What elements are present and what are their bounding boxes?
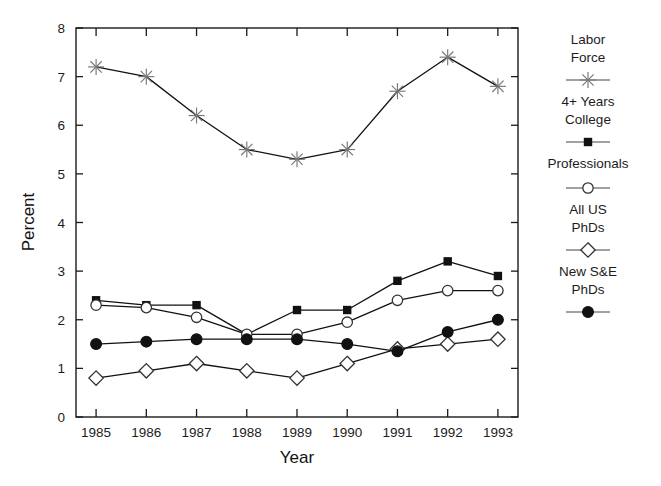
legend-label: Labor — [571, 32, 606, 47]
y-tick-label: 2 — [57, 313, 65, 328]
x-tick-label: 1989 — [282, 425, 312, 440]
x-axis-tick-labels: 198519861987198819891990199119921993 — [81, 425, 513, 440]
marker-filled-square — [394, 277, 401, 284]
marker-filled-circle — [241, 334, 252, 345]
marker-open-circle — [342, 317, 352, 327]
marker-open-circle — [141, 302, 151, 312]
x-tick-label: 1992 — [433, 425, 463, 440]
legend-label: College — [565, 112, 611, 127]
x-tick-label: 1987 — [182, 425, 212, 440]
marker-filled-circle — [91, 339, 102, 350]
y-tick-label: 6 — [57, 118, 65, 133]
marker-filled-circle — [342, 339, 353, 350]
marker-filled-square — [293, 306, 300, 313]
chart-background — [0, 0, 661, 486]
legend-entry: LaborForce — [566, 32, 610, 88]
legend-label: PhDs — [571, 220, 604, 235]
legend-label: 4+ Years — [562, 94, 615, 109]
legend-label: Force — [571, 50, 606, 65]
marker-filled-square — [494, 272, 501, 279]
marker-filled-circle — [583, 307, 594, 318]
y-tick-label: 7 — [57, 70, 65, 85]
y-axis-tick-labels: 012345678 — [57, 21, 65, 425]
legend-label: Professionals — [547, 156, 628, 171]
marker-open-circle — [583, 183, 593, 193]
marker-open-circle — [91, 300, 101, 310]
marker-filled-square — [584, 138, 591, 145]
x-tick-label: 1985 — [81, 425, 111, 440]
marker-open-circle — [392, 295, 402, 305]
marker-filled-circle — [392, 346, 403, 357]
x-tick-label: 1990 — [332, 425, 362, 440]
y-tick-label: 3 — [57, 264, 65, 279]
y-tick-label: 8 — [57, 21, 65, 36]
marker-filled-square — [344, 306, 351, 313]
x-axis-title: Year — [280, 448, 315, 467]
legend-label: New S&E — [559, 264, 617, 279]
marker-open-circle — [191, 312, 201, 322]
x-tick-label: 1991 — [382, 425, 412, 440]
y-tick-label: 0 — [57, 410, 65, 425]
marker-open-circle — [442, 285, 452, 295]
x-tick-label: 1993 — [483, 425, 513, 440]
marker-filled-circle — [191, 334, 202, 345]
legend-label: PhDs — [571, 282, 604, 297]
legend-label: All US — [569, 202, 607, 217]
marker-filled-circle — [442, 327, 453, 338]
y-axis-title: Percent — [19, 192, 38, 251]
x-tick-label: 1986 — [131, 425, 161, 440]
marker-filled-circle — [493, 314, 504, 325]
marker-filled-circle — [292, 334, 303, 345]
y-tick-label: 4 — [57, 216, 65, 231]
chart-container: 012345678 198519861987198819891990199119… — [0, 0, 661, 486]
x-tick-label: 1988 — [232, 425, 262, 440]
marker-filled-square — [193, 302, 200, 309]
marker-filled-circle — [141, 336, 152, 347]
marker-filled-square — [444, 258, 451, 265]
y-tick-label: 5 — [57, 167, 65, 182]
y-tick-label: 1 — [57, 361, 65, 376]
line-chart: 012345678 198519861987198819891990199119… — [0, 0, 661, 486]
marker-open-circle — [493, 285, 503, 295]
